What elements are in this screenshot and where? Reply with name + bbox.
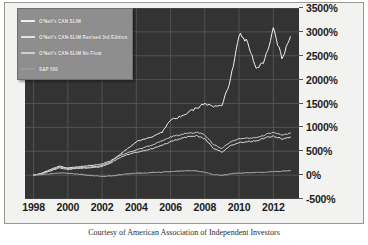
y-tick-mark xyxy=(299,103,303,104)
y-tick-mark xyxy=(299,174,303,175)
y-tick-label: 0% xyxy=(306,169,321,181)
legend-label: O'Neil's CAN-SLIM Revised 3rd Edition xyxy=(39,35,127,40)
chart-legend: O'Neil's CAN SLIM O'Neil's CAN-SLIM Revi… xyxy=(17,8,133,80)
x-axis-tick-label: 1998 xyxy=(22,201,45,213)
legend-swatch-no-float xyxy=(21,52,35,54)
y-tick-label: 3000% xyxy=(306,26,338,38)
legend-label: O'Neil's CAN SLIM xyxy=(39,19,81,24)
y-tick-mark xyxy=(299,55,303,56)
chart-figure: 3500%3000%2500%2000%1500%1000%500%0%-500… xyxy=(0,0,368,245)
legend-swatch-revised-3rd-edition xyxy=(21,36,35,38)
x-axis-tick-label: 2002 xyxy=(91,201,114,213)
y-tick-label: 1500% xyxy=(306,98,338,110)
legend-swatch-can-slim xyxy=(21,20,35,22)
y-tick-label: 3500% xyxy=(306,2,338,14)
y-tick-label: 2000% xyxy=(306,74,338,86)
legend-item: O'Neil's CAN SLIM xyxy=(21,13,129,29)
x-axis-tick-label: 2000 xyxy=(57,201,80,213)
legend-swatch-sp500 xyxy=(21,68,35,70)
x-axis: 19982000200220042006200820102012 xyxy=(25,201,305,221)
y-tick-label: 2500% xyxy=(306,50,338,62)
x-axis-tick-label: 2012 xyxy=(262,201,285,213)
chart-frame: 3500%3000%2500%2000%1500%1000%500%0%-500… xyxy=(4,2,364,224)
x-axis-tick-label: 2006 xyxy=(159,201,182,213)
y-axis: 3500%3000%2500%2000%1500%1000%500%0%-500… xyxy=(299,8,363,199)
legend-item: O'Neil's CAN-SLIM Revised 3rd Edition xyxy=(21,29,129,45)
legend-item: S&P 500 xyxy=(21,61,129,77)
x-axis-tick-label: 2010 xyxy=(228,201,251,213)
y-tick-mark xyxy=(299,126,303,127)
chart-caption: Courtesy of American Association of Inde… xyxy=(0,228,368,237)
series-line xyxy=(34,171,291,177)
y-tick-label: -500% xyxy=(306,193,335,205)
y-tick-mark xyxy=(299,79,303,80)
x-axis-tick-label: 2008 xyxy=(194,201,217,213)
y-tick-mark xyxy=(299,198,303,199)
y-tick-label: 1000% xyxy=(306,121,338,133)
y-tick-label: 500% xyxy=(306,145,332,157)
y-tick-mark xyxy=(299,31,303,32)
x-axis-tick-label: 2004 xyxy=(125,201,148,213)
y-tick-mark xyxy=(299,150,303,151)
y-tick-mark xyxy=(299,7,303,8)
legend-label: S&P 500 xyxy=(39,67,58,72)
legend-item: O'Neil's CAN-SLIM No Float xyxy=(21,45,129,61)
legend-label: O'Neil's CAN-SLIM No Float xyxy=(39,51,102,56)
